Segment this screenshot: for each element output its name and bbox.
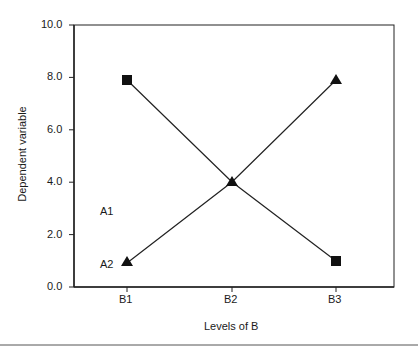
x-axis-title: Levels of B: [204, 320, 258, 332]
marker-triangle: [330, 74, 342, 84]
chart-svg: [0, 0, 418, 351]
x-tick-label: B2: [224, 293, 237, 305]
y-axis-title: Dependent variable: [16, 104, 28, 204]
x-tick-label: B1: [119, 293, 132, 305]
series-a2: [121, 74, 342, 266]
y-tick-label: 0.0: [47, 280, 62, 292]
y-tick-label: 10.0: [41, 18, 62, 30]
y-tick-label: 6.0: [47, 123, 62, 135]
marker-triangle: [121, 256, 133, 266]
marker-square: [331, 256, 341, 266]
y-tick-label: 2.0: [47, 228, 62, 240]
x-tick-label: B3: [328, 293, 341, 305]
series-label-a2: A2: [100, 258, 113, 270]
series-label-a1: A1: [100, 205, 113, 217]
plot-area-frame: [74, 25, 394, 287]
y-tick-label: 4.0: [47, 175, 62, 187]
y-tick-label: 8.0: [47, 70, 62, 82]
series-a1: [122, 75, 341, 266]
marker-square: [122, 75, 132, 85]
